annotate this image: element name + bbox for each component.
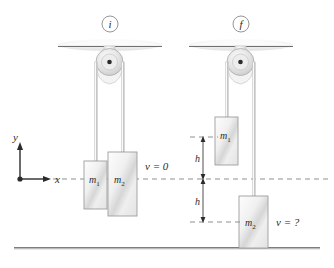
badge-initial: i <box>102 16 118 32</box>
pulley-final <box>227 49 254 85</box>
block-m1-final: m1 <box>215 117 238 165</box>
origin-dot <box>17 176 22 181</box>
badge-initial-label: i <box>108 18 111 30</box>
dimension-h-upper: h <box>195 136 205 180</box>
x-axis-label: x <box>54 173 60 185</box>
ground-line <box>14 247 320 250</box>
y-axis-label: y <box>12 131 18 143</box>
block-m2-initial: m2 <box>108 152 137 216</box>
dimension-h-upper-label: h <box>195 153 200 164</box>
y-axis <box>17 142 23 179</box>
block-m1-initial: m1 <box>84 161 107 209</box>
pulley-axle-initial <box>107 60 112 65</box>
rope-final-right <box>253 62 256 196</box>
diagram-canvas: y x i <box>0 0 334 268</box>
rope-final-left <box>226 62 229 117</box>
velocity-label-final: v = ? <box>276 216 300 228</box>
velocity-label-initial: v = 0 <box>145 160 169 172</box>
badge-final: f <box>233 16 249 32</box>
rope-initial-left <box>95 62 98 161</box>
physics-diagram-figure: y x i <box>0 0 334 268</box>
block-m2-final: m2 <box>239 196 268 248</box>
dimension-h-lower-label: h <box>195 196 200 207</box>
rope-initial-right <box>122 62 125 152</box>
coordinate-axes: y x <box>12 131 60 185</box>
pulley-initial <box>96 49 123 85</box>
pulley-axle-final <box>238 60 243 65</box>
panel-final: f m1 <box>189 16 300 248</box>
dimension-h-lower: h <box>195 178 205 223</box>
panel-initial: i m1 <box>58 16 169 216</box>
x-axis <box>20 176 51 182</box>
